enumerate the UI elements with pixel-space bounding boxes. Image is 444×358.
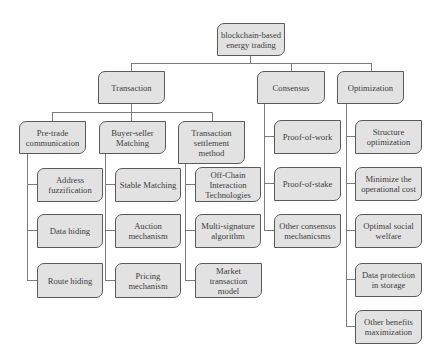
node-market-transaction-model: Market transaction model <box>195 263 262 298</box>
connector <box>346 183 355 184</box>
connector <box>27 230 37 231</box>
connector <box>27 184 37 185</box>
node-auction-mechanism: Auction mechanism <box>115 214 181 248</box>
node-other-consensus: Other consensus mechanicsms <box>274 214 341 248</box>
node-proof-of-stake: Proof-of-stake <box>274 167 341 201</box>
node-minimize-operational-cost: Minimize the operational cost <box>355 167 422 201</box>
connector <box>291 63 292 71</box>
node-address-fuzzification: Address fuzzification <box>37 168 103 202</box>
connector <box>105 280 115 281</box>
node-stable-matching: Stable Matching <box>115 168 181 202</box>
connector <box>105 230 115 231</box>
connector <box>131 112 132 121</box>
node-multi-signature: Multi-signature algorithm <box>195 214 261 248</box>
node-proof-of-work: Proof-of-work <box>274 120 341 154</box>
connector <box>264 230 274 231</box>
node-route-hiding: Route hiding <box>37 263 103 298</box>
taxonomy-diagram: blockchain-based energy trading Transact… <box>0 0 444 358</box>
node-consensus: Consensus <box>257 71 325 104</box>
connector <box>185 184 195 185</box>
connector <box>52 112 53 121</box>
connector <box>27 153 28 281</box>
connector <box>264 136 274 137</box>
node-buyer-seller: Buyer-seller Matching <box>99 121 166 154</box>
connector <box>346 230 355 231</box>
node-root: blockchain-based energy trading <box>217 23 285 56</box>
connector <box>346 279 355 280</box>
node-optimal-social-welfare: Optimal social welfare <box>355 214 422 248</box>
node-data-protection-storage: Data protection in storage <box>355 263 422 297</box>
connector <box>212 112 213 121</box>
connector <box>27 280 37 281</box>
connector <box>52 112 213 113</box>
connector <box>346 326 355 327</box>
node-pricing-mechanism: Pricing mechanism <box>115 263 181 298</box>
connector <box>105 153 106 281</box>
node-other-benefits: Other benefits maximization <box>355 310 422 344</box>
connector <box>131 63 372 64</box>
connector <box>264 103 265 231</box>
connector <box>105 184 115 185</box>
connector <box>185 163 186 281</box>
connector <box>131 63 132 71</box>
node-pretrade: Pre-trade communication <box>19 121 86 154</box>
connector <box>371 63 372 71</box>
connector <box>131 103 132 112</box>
connector <box>346 136 355 137</box>
node-optimization: Optimization <box>337 71 404 104</box>
node-data-hiding: Data hiding <box>37 214 103 248</box>
connector <box>185 230 195 231</box>
node-transaction: Transaction <box>98 71 165 104</box>
connector <box>185 280 195 281</box>
connector <box>264 183 274 184</box>
node-structure-optimization: Structure optimization <box>355 120 422 154</box>
node-off-chain: Off-Chain Interaction Technologies <box>195 167 261 202</box>
node-settlement: Transaction settlement method <box>178 121 245 164</box>
